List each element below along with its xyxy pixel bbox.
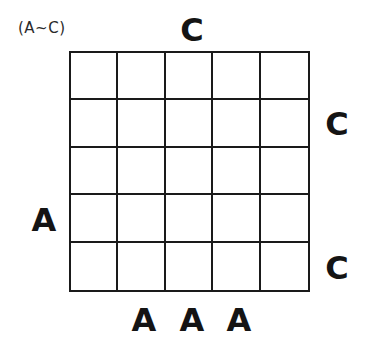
grid-cell-r4c4[interactable]: [213, 195, 260, 242]
grid-cell-r2c2[interactable]: [118, 100, 165, 147]
grid-cell-r1c5[interactable]: [261, 53, 308, 100]
grid-cell-r4c3[interactable]: [166, 195, 213, 242]
grid-cell-r1c1[interactable]: [71, 53, 118, 100]
clue-bottom-col2: A: [124, 300, 164, 340]
grid-cell-r1c3[interactable]: [166, 53, 213, 100]
clue-right-row5: C: [317, 248, 357, 288]
grid-cell-r2c1[interactable]: [71, 100, 118, 147]
clue-bottom-col3: A: [172, 300, 212, 340]
grid-cell-r4c1[interactable]: [71, 195, 118, 242]
grid-cell-r3c4[interactable]: [213, 148, 260, 195]
range-label: (A~C): [18, 19, 66, 37]
grid-cell-r2c4[interactable]: [213, 100, 260, 147]
clue-bottom-col4: A: [219, 300, 259, 340]
grid-cell-r3c2[interactable]: [118, 148, 165, 195]
grid-cell-r2c5[interactable]: [261, 100, 308, 147]
clue-top-col3: C: [172, 10, 212, 50]
grid-cell-r1c4[interactable]: [213, 53, 260, 100]
grid-cell-r1c2[interactable]: [118, 53, 165, 100]
grid-cell-r5c2[interactable]: [118, 243, 165, 290]
grid-cell-r5c1[interactable]: [71, 243, 118, 290]
grid-cell-r4c2[interactable]: [118, 195, 165, 242]
clue-left-row4: A: [24, 200, 64, 240]
grid-cell-r3c3[interactable]: [166, 148, 213, 195]
grid-cell-r2c3[interactable]: [166, 100, 213, 147]
grid-cell-r5c4[interactable]: [213, 243, 260, 290]
grid-cell-r4c5[interactable]: [261, 195, 308, 242]
grid-cell-r3c5[interactable]: [261, 148, 308, 195]
clue-right-row2: C: [317, 104, 357, 144]
puzzle-grid: [69, 51, 310, 292]
grid-cell-r5c5[interactable]: [261, 243, 308, 290]
grid-cell-r5c3[interactable]: [166, 243, 213, 290]
grid-cell-r3c1[interactable]: [71, 148, 118, 195]
